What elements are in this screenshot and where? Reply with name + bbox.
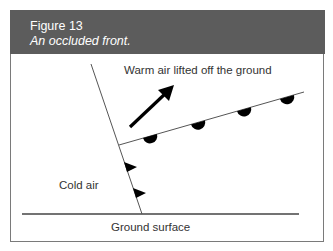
ground-surface-label: Ground surface [111,221,190,233]
warm-air-label: Warm air lifted off the ground [124,64,272,76]
cold-air-label: Cold air [59,179,99,191]
occluded-front-diagram [0,0,333,251]
lift-arrow-icon [130,85,174,127]
cold-front-triangles [124,162,146,198]
semicircle-icon [191,120,205,129]
triangle-icon [133,188,146,198]
warm-front-semicircles [143,95,294,143]
semicircle-icon [280,95,294,104]
triangle-icon [124,162,137,172]
semicircle-icon [237,107,251,116]
semicircle-icon [143,134,157,143]
